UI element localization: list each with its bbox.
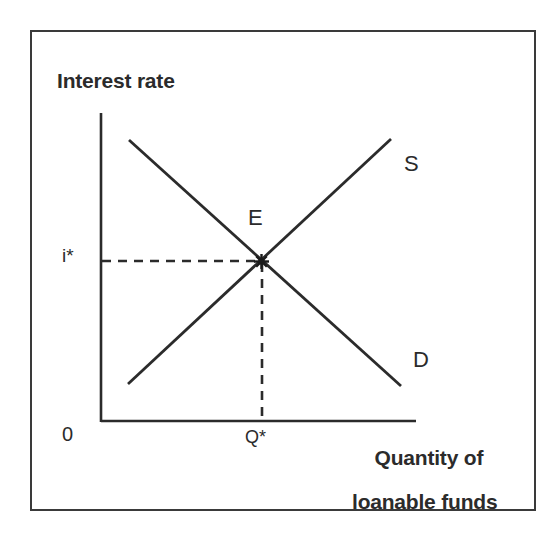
equilibrium-point-label: E [248,206,263,229]
equilibrium-interest-rate-label: i* [62,246,74,266]
origin-label: 0 [62,424,73,445]
equilibrium-quantity-label: Q* [245,428,266,447]
x-axis-title-line-1: Quantity of [375,446,484,469]
demand-curve-label: D [413,348,429,371]
equilibrium-marker [254,254,269,269]
supply-curve-label: S [404,152,419,175]
x-axis-title: Quantity of loanable funds [352,425,497,540]
demand-curve [129,140,401,386]
x-axis-title-line-2: loanable funds [352,491,497,513]
figure-root: Interest rate i* 0 Q* E S D Quantity of … [0,0,560,540]
y-axis-title: Interest rate [57,70,175,92]
